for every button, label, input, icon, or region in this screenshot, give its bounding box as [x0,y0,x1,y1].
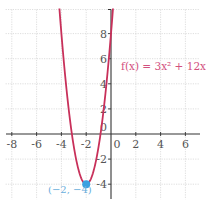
x-tick-label: -6 [31,138,42,151]
x-tick-label: -2 [81,138,92,151]
x-tick-label: 4 [157,138,164,151]
vertex-label: (−2, −4) [48,184,92,195]
x-tick-label: 6 [182,138,189,151]
plot-area: -8-6-4-20246 86420-2-4 f(x) = 3x² + 12x … [0,0,206,207]
y-tick-label: 6 [100,53,107,66]
function-label: f(x) = 3x² + 12x + 8 [121,60,206,72]
y-tick-labels: 86420-2-4 [96,28,107,192]
x-tick-label: -8 [6,138,17,151]
y-tick-label: -4 [96,178,107,191]
x-tick-label: 0 [114,138,121,151]
y-tick-label: 8 [100,28,107,41]
x-tick-label: 2 [132,138,139,151]
x-tick-label: -4 [56,138,67,151]
